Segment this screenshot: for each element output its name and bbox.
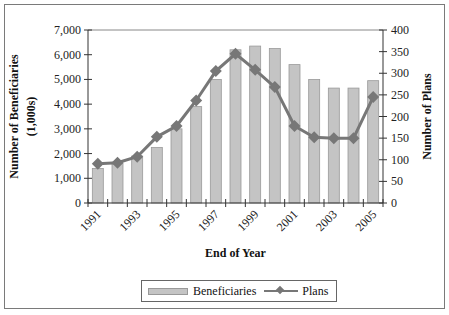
right-y-tick-label: 150 — [391, 131, 409, 145]
x-tick-label: 2005 — [352, 207, 379, 234]
bar-beneficiaries — [348, 88, 359, 203]
left-y-tick-label: 7,000 — [54, 23, 81, 37]
left-y-axis-title: Number of Beneficiaries(1,000s) — [7, 54, 38, 179]
bar-beneficiaries — [328, 88, 339, 203]
bar-swatch-icon — [148, 288, 188, 295]
right-y-tick-label: 250 — [391, 88, 409, 102]
legend-item-plans: Plans — [264, 284, 328, 299]
x-tick-label: 1997 — [195, 207, 222, 234]
x-tick-label: 2001 — [274, 207, 301, 234]
right-y-tick-label: 350 — [391, 45, 409, 59]
bar-beneficiaries — [132, 156, 143, 203]
right-y-axis-title: Number of Plans — [420, 73, 434, 160]
left-y-tick-label: 3,000 — [54, 122, 81, 136]
x-tick-label: 1991 — [77, 207, 104, 234]
bar-beneficiaries — [269, 49, 280, 203]
left-y-tick-label: 0 — [75, 196, 81, 210]
bar-beneficiaries — [92, 168, 103, 203]
left-y-tick-label: 1,000 — [54, 171, 81, 185]
legend-label: Plans — [302, 284, 328, 299]
right-y-tick-label: 300 — [391, 66, 409, 80]
legend-label: Beneficiaries — [193, 284, 256, 299]
x-tick-label: 1999 — [234, 207, 261, 234]
right-y-tick-label: 50 — [391, 174, 403, 188]
left-y-tick-label: 6,000 — [54, 48, 81, 62]
left-y-tick-label: 2,000 — [54, 147, 81, 161]
combo-chart: 01,0002,0003,0004,0005,0006,0007,0000501… — [0, 0, 449, 315]
bar-beneficiaries — [230, 50, 241, 203]
bar-beneficiaries — [151, 147, 162, 203]
right-y-tick-label: 100 — [391, 153, 409, 167]
right-y-tick-label: 0 — [391, 196, 397, 210]
x-tick-label: 1993 — [116, 207, 143, 234]
plans-diamond-marker-icon — [92, 158, 104, 170]
left-y-tick-label: 4,000 — [54, 97, 81, 111]
legend-item-beneficiaries: Beneficiaries — [148, 284, 256, 299]
x-tick-label: 1995 — [156, 207, 183, 234]
bar-beneficiaries — [191, 107, 202, 203]
bar-beneficiaries — [171, 129, 182, 203]
chart-legend: Beneficiaries Plans — [141, 280, 337, 302]
line-marker-swatch-icon — [264, 287, 298, 295]
right-y-tick-label: 200 — [391, 110, 409, 124]
bar-beneficiaries — [210, 79, 221, 203]
x-tick-label: 2003 — [313, 207, 340, 234]
bar-beneficiaries — [112, 163, 123, 203]
bar-beneficiaries — [289, 65, 300, 203]
left-y-tick-label: 5,000 — [54, 72, 81, 86]
x-axis-title: End of Year — [205, 246, 267, 260]
right-y-tick-label: 400 — [391, 23, 409, 37]
